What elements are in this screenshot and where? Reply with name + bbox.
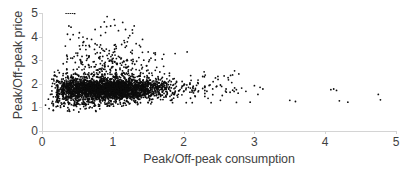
scatter-points-layer xyxy=(42,13,396,131)
x-tick-label: 5 xyxy=(386,136,406,148)
x-tick-label: 3 xyxy=(244,136,264,148)
x-axis-title: Peak/Off-peak consumption xyxy=(42,152,396,166)
y-tick-label: 3 xyxy=(24,54,38,66)
x-tick-mark xyxy=(325,131,326,134)
y-tick-label: 2 xyxy=(24,78,38,90)
x-tick-mark xyxy=(42,131,43,134)
x-axis-tick-labels: 012345 xyxy=(42,136,396,152)
x-tick-label: 2 xyxy=(174,136,194,148)
plot-area xyxy=(42,13,396,131)
y-tick-label: 5 xyxy=(24,7,38,19)
y-tick-label: 1 xyxy=(24,101,38,113)
x-tick-label: 4 xyxy=(315,136,335,148)
x-axis-line xyxy=(42,131,396,132)
x-tick-mark xyxy=(113,131,114,134)
x-tick-mark xyxy=(396,131,397,134)
x-tick-label: 0 xyxy=(32,136,52,148)
scatter-chart: Peak/Off-peak price 012345 012345 Peak/O… xyxy=(0,0,411,173)
y-tick-label: 4 xyxy=(24,31,38,43)
x-tick-mark xyxy=(184,131,185,134)
x-tick-mark xyxy=(254,131,255,134)
x-tick-label: 1 xyxy=(103,136,123,148)
